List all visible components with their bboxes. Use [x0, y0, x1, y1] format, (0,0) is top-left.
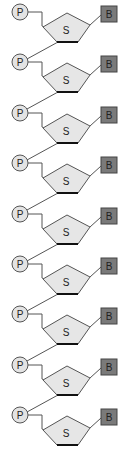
sugar-base-bond	[90, 317, 101, 327]
phosphate-sugar-bond	[28, 415, 44, 430]
backbone-link	[27, 92, 58, 109]
base-label: B	[106, 160, 113, 171]
sugar-base-bond	[90, 418, 101, 428]
sugar-base-bond	[90, 267, 101, 277]
sugar-label: S	[63, 25, 70, 36]
backbone-link	[27, 193, 58, 210]
nucleotide-unit: PSB	[12, 105, 117, 160]
sugar-label: S	[63, 227, 70, 238]
nucleotide-unit: PSB	[12, 155, 117, 210]
base-label: B	[106, 110, 113, 121]
nucleotide-unit: PSB	[12, 306, 117, 361]
backbone-link	[27, 244, 58, 261]
sugar-label: S	[63, 176, 70, 187]
phosphate-label: P	[17, 7, 24, 18]
nucleotide-unit: PSB	[12, 407, 117, 445]
phosphate-sugar-bond	[28, 264, 44, 279]
nucleotide-unit: PSB	[12, 206, 117, 261]
sugar-label: S	[63, 378, 70, 389]
phosphate-sugar-bond	[28, 113, 44, 128]
sugar-base-bond	[90, 368, 101, 378]
phosphate-label: P	[17, 57, 24, 68]
sugar-base-bond	[90, 217, 101, 227]
backbone-link	[27, 294, 58, 311]
backbone-link	[27, 344, 58, 361]
phosphate-sugar-bond	[28, 365, 44, 380]
base-label: B	[106, 412, 113, 423]
phosphate-sugar-bond	[28, 62, 44, 77]
phosphate-label: P	[17, 259, 24, 270]
phosphate-label: P	[17, 309, 24, 320]
sugar-base-bond	[90, 65, 101, 75]
base-label: B	[106, 211, 113, 222]
base-label: B	[106, 59, 113, 70]
sugar-base-bond	[90, 166, 101, 176]
phosphate-sugar-bond	[28, 12, 44, 27]
phosphate-label: P	[17, 108, 24, 119]
sugar-base-bond	[90, 116, 101, 126]
sugar-label: S	[63, 75, 70, 86]
base-label: B	[106, 9, 113, 20]
nucleotide-unit: PSB	[12, 256, 117, 311]
sugar-label: S	[63, 126, 70, 137]
nucleotide-unit: PSB	[12, 357, 117, 412]
backbone-link	[27, 42, 58, 59]
phosphate-label: P	[17, 360, 24, 371]
backbone-link	[27, 395, 58, 412]
phosphate-sugar-bond	[28, 163, 44, 178]
phosphate-label: P	[17, 158, 24, 169]
sugar-label: S	[63, 428, 70, 439]
nucleotide-unit: PSB	[12, 54, 117, 109]
sugar-label: S	[63, 277, 70, 288]
sugar-label: S	[63, 327, 70, 338]
base-label: B	[106, 311, 113, 322]
phosphate-sugar-bond	[28, 214, 44, 229]
backbone-link	[27, 143, 58, 160]
phosphate-sugar-bond	[28, 314, 44, 329]
sugar-base-bond	[90, 15, 101, 25]
nucleotide-chain-diagram: PSBPSBPSBPSBPSBPSBPSBPSBPSB	[0, 0, 122, 451]
nucleotide-unit: PSB	[12, 4, 117, 59]
base-label: B	[106, 362, 113, 373]
base-label: B	[106, 261, 113, 272]
phosphate-label: P	[17, 410, 24, 421]
phosphate-label: P	[17, 209, 24, 220]
